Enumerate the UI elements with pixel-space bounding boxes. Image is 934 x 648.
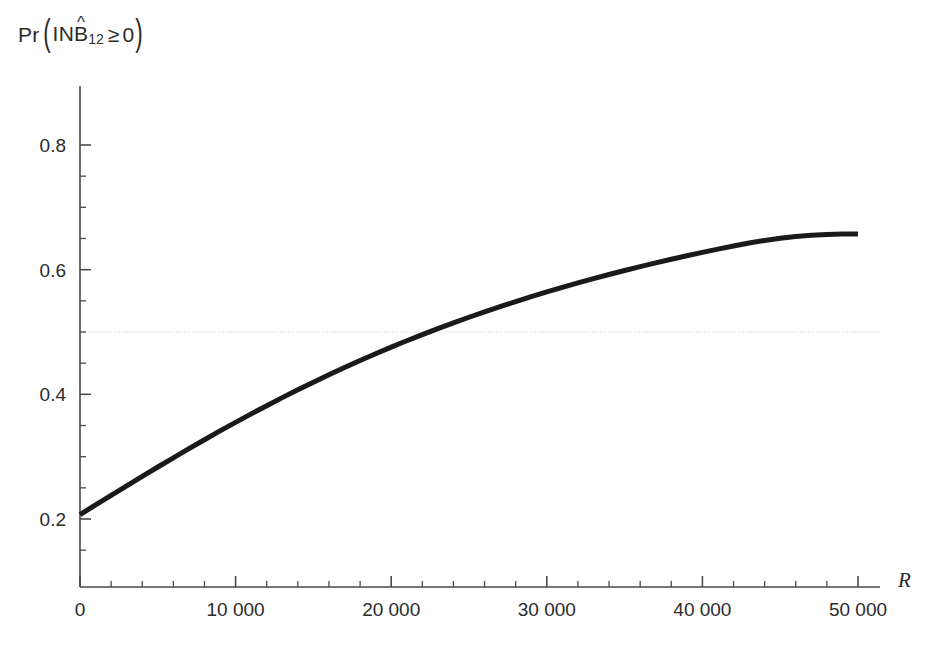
x-tick-label: 20 000 [362,599,420,620]
data-line-series-0 [80,234,858,515]
y-tick-label: 0.8 [40,135,66,156]
tick-label-group: 010 00020 00030 00040 00050 0000.20.40.6… [40,135,887,620]
x-tick-label: 30 000 [518,599,576,620]
y-tick-label: 0.4 [40,384,67,405]
x-tick-label: 10 000 [207,599,265,620]
x-tick-label: 50 000 [829,599,887,620]
y-tick-label: 0.2 [40,509,66,530]
data-series-group [80,234,858,515]
figure-canvas: Pr ( IN^B12 ≥ 0 ) 010 00020 00030 00040 … [0,0,934,648]
x-tick-label: 0 [75,599,86,620]
y-tick-label: 0.6 [40,260,66,281]
axis-group [80,86,880,587]
plot-area: 010 00020 00030 00040 00050 0000.20.40.6… [0,0,934,648]
x-tick-label: 40 000 [673,599,731,620]
tick-group [80,145,858,587]
x-axis-label: R [897,568,911,592]
